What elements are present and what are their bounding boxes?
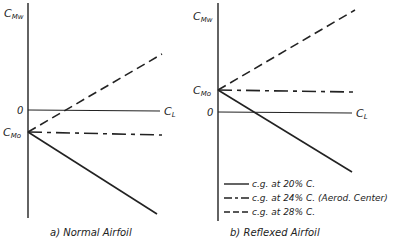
- zero-label: 0: [17, 105, 23, 116]
- zero-line: [218, 112, 352, 113]
- line-cg-24-dashdot: [218, 90, 353, 92]
- line-cg-20-solid: [28, 132, 157, 214]
- svg-text:c.g. at 20% C.: c.g. at 20% C.: [252, 179, 315, 189]
- legend-item-dashdot: c.g. at 24% C. (Aerod. Center): [224, 193, 388, 203]
- legend: c.g. at 20% C. c.g. at 24% C. (Aerod. Ce…: [224, 179, 388, 217]
- svg-text:c.g. at 28% C.: c.g. at 28% C.: [252, 207, 315, 217]
- y-axis-label: CMw: [4, 7, 24, 21]
- intercept-label: CMo: [3, 126, 21, 140]
- legend-item-dashed: c.g. at 28% C.: [224, 207, 315, 217]
- panel-reflexed-airfoil: CMw CMo 0 CL c.g. at 20% C. c.g. at 24% …: [193, 3, 388, 238]
- caption-b: b) Reflexed Airfoil: [230, 227, 320, 238]
- line-cg-24-dashdot: [28, 132, 162, 135]
- line-cg-28-dashed: [28, 54, 162, 132]
- line-cg-28-dashed: [218, 10, 355, 90]
- svg-text:c.g. at 24% C. (Aerod. Center): c.g. at 24% C. (Aerod. Center): [252, 193, 388, 203]
- intercept-label: CMo: [193, 84, 211, 98]
- line-cg-20-solid: [218, 90, 352, 172]
- caption-a: a) Normal Airfoil: [50, 227, 132, 238]
- zero-label: 0: [207, 107, 213, 118]
- legend-item-solid: c.g. at 20% C.: [224, 179, 315, 189]
- panel-normal-airfoil: CMw 0 CL CMo a) Normal Airfoil: [3, 3, 176, 238]
- zero-line: [28, 110, 160, 111]
- y-axis-label: CMw: [193, 10, 213, 24]
- x-axis-label: CL: [356, 107, 368, 121]
- diagram-canvas: CMw 0 CL CMo a) Normal Airfoil CMw CMo 0…: [0, 0, 393, 242]
- x-axis-label: CL: [164, 105, 176, 119]
